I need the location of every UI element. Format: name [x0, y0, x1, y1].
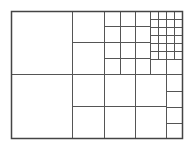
fine-grid-cell	[175, 52, 183, 60]
grid-cell	[136, 107, 167, 139]
fine-grid-cell	[167, 36, 175, 44]
fine-grid-cell	[167, 44, 175, 52]
grid-cell	[121, 59, 136, 75]
grid-cell	[136, 12, 151, 27]
fine-grid-cell	[159, 44, 167, 52]
fine-grid-cell	[167, 20, 175, 28]
grid-cell	[105, 27, 121, 43]
fine-grid-cell	[159, 36, 167, 44]
grid-cell	[105, 107, 136, 139]
grid-cell	[167, 75, 183, 92]
grid-cell	[105, 12, 121, 27]
fine-grid-cell	[175, 44, 183, 52]
fine-grid-cell	[151, 28, 159, 36]
grid-cell	[121, 27, 136, 43]
fine-grid-cell	[175, 28, 183, 36]
grid-cell	[12, 12, 73, 75]
subdivision-grid	[0, 0, 191, 145]
grid-cell	[105, 75, 136, 107]
fine-grid-cell	[151, 36, 159, 44]
grid-cell	[73, 75, 105, 107]
fine-grid-cell	[151, 52, 159, 60]
grid-cell	[167, 60, 183, 75]
fine-grid-cell	[175, 36, 183, 44]
grid-cell	[73, 43, 105, 75]
grid-cell	[167, 92, 183, 108]
fine-grid-cell	[159, 20, 167, 28]
fine-grid-cell	[151, 12, 159, 20]
grid-cell	[136, 27, 151, 43]
grid-cell	[105, 43, 121, 59]
fine-grid-cell	[151, 44, 159, 52]
fine-grid-cell	[151, 20, 159, 28]
grid-cell	[136, 43, 151, 59]
grid-cell	[136, 75, 167, 107]
grid-cell	[121, 12, 136, 27]
grid-cell	[121, 43, 136, 59]
fine-grid-cell	[175, 20, 183, 28]
fine-grid-cell	[167, 28, 175, 36]
grid-diagram	[0, 0, 191, 145]
grid-cell	[151, 60, 167, 75]
grid-cell	[167, 124, 183, 139]
fine-grid-cell	[167, 12, 175, 20]
fine-grid-cell	[159, 12, 167, 20]
fine-grid-cell	[159, 52, 167, 60]
grid-cell	[12, 75, 73, 139]
fine-grid-cell	[167, 52, 175, 60]
grid-cell	[73, 12, 105, 43]
fine-grid-cell	[175, 12, 183, 20]
grid-cell	[167, 108, 183, 124]
grid-cell	[136, 59, 151, 75]
fine-grid-cell	[159, 28, 167, 36]
grid-cell	[105, 59, 121, 75]
grid-cell	[73, 107, 105, 139]
